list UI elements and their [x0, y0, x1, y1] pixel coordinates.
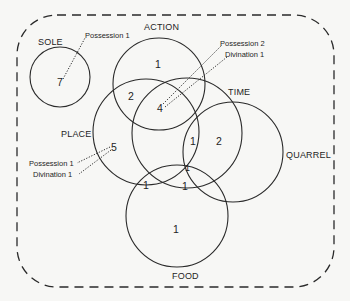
- label-place: PLACE: [61, 129, 92, 139]
- leader-place-possession: [77, 147, 110, 163]
- circle-food: [126, 165, 228, 267]
- label-action: ACTION: [144, 22, 179, 32]
- label-food: FOOD: [172, 271, 199, 281]
- count-place-food: 1: [143, 179, 149, 191]
- circle-quarrel: [183, 102, 283, 202]
- count-quarrel-only: 2: [216, 135, 222, 147]
- label-quarrel: QUARREL: [286, 150, 331, 160]
- count-action-place-time: 4: [157, 102, 163, 114]
- label-time: TIME: [228, 87, 250, 97]
- count-place-time-food: 1: [182, 180, 188, 192]
- count-place-time-quarrel-food: 1: [185, 163, 190, 173]
- leader-place-divination: [79, 150, 111, 174]
- venn-diagram: SOLE ACTION TIME PLACE QUARREL FOOD 7 1 …: [0, 0, 350, 301]
- leader-sole-possession: [63, 38, 85, 79]
- count-time-quarrel: 1: [190, 135, 196, 147]
- annot-center-possession: Possession 2: [220, 39, 265, 48]
- count-action-place: 2: [128, 90, 134, 102]
- annot-center-divination: Divination 1: [225, 50, 264, 59]
- annot-place-possession: Possession 1: [29, 159, 74, 168]
- count-sole-only: 7: [57, 76, 63, 88]
- annot-place-divination: Divination 1: [33, 170, 72, 179]
- annot-sole-possession: Possession 1: [85, 31, 130, 40]
- count-action-only: 1: [155, 58, 161, 70]
- label-sole: SOLE: [38, 37, 63, 47]
- count-place-only: 5: [111, 141, 117, 153]
- leader-center-divination: [165, 57, 227, 107]
- count-food-only: 1: [173, 223, 179, 235]
- circle-action: [113, 38, 205, 130]
- leader-center-possession: [163, 45, 222, 104]
